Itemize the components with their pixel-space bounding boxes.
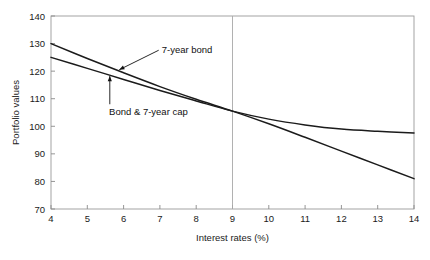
x-tick-label: 13: [372, 213, 383, 224]
y-tick-label: 90: [34, 148, 45, 159]
y-tick-label: 80: [34, 176, 45, 187]
y-tick-label: 120: [29, 66, 45, 77]
y-tick-label: 100: [29, 121, 45, 132]
y-axis-title: Portfolio values: [10, 80, 21, 145]
7-year-bond-annotation-text: 7-year bond: [162, 44, 213, 55]
y-tick-label: 110: [30, 93, 45, 104]
x-tick-label: 8: [194, 213, 199, 224]
x-axis-title: Interest rates (%): [196, 232, 269, 243]
y-tick-label: 140: [29, 11, 45, 22]
x-tick-label: 12: [336, 213, 347, 224]
x-tick-label: 11: [300, 213, 310, 224]
x-tick-label: 5: [85, 213, 90, 224]
x-tick-label: 14: [409, 213, 420, 224]
chart-figure: 4567891011121314 708090100110120130140 7…: [0, 0, 430, 260]
x-tick-label: 10: [264, 213, 275, 224]
x-tick-label: 6: [121, 213, 126, 224]
x-tick-label: 4: [48, 213, 53, 224]
x-tick-label: 7: [157, 213, 162, 224]
x-tick-label: 9: [230, 213, 235, 224]
bond-and-cap-annotation-text: Bond & 7-year cap: [109, 106, 188, 117]
portfolio-values-line-chart: 4567891011121314 708090100110120130140 7…: [0, 0, 430, 260]
y-tick-label: 130: [29, 38, 45, 49]
y-tick-label: 70: [34, 204, 45, 215]
